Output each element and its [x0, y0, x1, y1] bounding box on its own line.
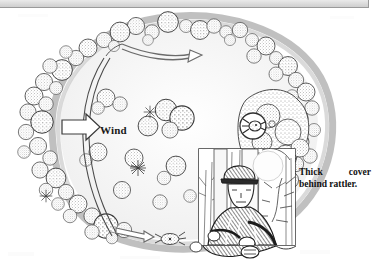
- caption-line-2: behind rattler.: [299, 179, 371, 191]
- caption-line-1: Thick cover: [299, 167, 371, 179]
- thick-cover-caption: Thick cover behind rattler.: [299, 167, 371, 190]
- illustration-stage: Wind Thick cover behind rattler.: [0, 0, 375, 265]
- hunter-photo-inset: [197, 148, 296, 249]
- hunting-setup-figure: [0, 0, 375, 265]
- wind-label: Wind: [100, 124, 127, 136]
